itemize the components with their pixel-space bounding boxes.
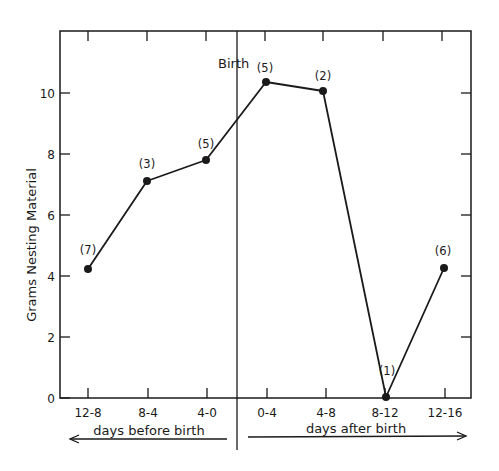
svg-text:8-12: 8-12 [371,406,398,420]
data-line [88,82,444,397]
svg-text:(5): (5) [198,137,214,151]
svg-text:12-8: 12-8 [74,406,101,420]
data-point [84,265,92,273]
data-point [143,177,151,185]
svg-text:8: 8 [47,148,55,162]
x-ticks-top [88,31,442,41]
data-point [382,393,390,401]
x-ticks-bottom [88,388,445,398]
data-point [202,156,210,164]
svg-text:10: 10 [40,87,55,101]
svg-text:0: 0 [47,392,55,406]
svg-text:(3): (3) [139,157,155,171]
nesting-material-chart: Birth 0 2 4 6 8 10 Grams Nesti [0,0,499,471]
svg-text:4-8: 4-8 [316,406,336,420]
data-point [262,78,270,86]
svg-text:4: 4 [47,270,55,284]
svg-text:(5): (5) [257,61,273,75]
birth-label: Birth [218,56,249,71]
svg-text:(2): (2) [315,69,331,83]
y-axis-label: Grams Nesting Material [24,168,39,322]
svg-text:(7): (7) [80,243,96,257]
svg-text:0-4: 0-4 [257,406,277,420]
svg-text:12-16: 12-16 [428,406,463,420]
x-label-after: days after birth [306,421,406,436]
data-points [84,78,448,401]
y-ticks-right [461,93,471,337]
svg-text:8-4: 8-4 [138,406,158,420]
svg-text:(6): (6) [435,244,451,258]
svg-text:2: 2 [47,331,55,345]
svg-text:4-0: 4-0 [197,406,217,420]
sample-size-labels: (7) (3) (5) (5) (2) (1) (6) [80,61,451,378]
y-tick-labels: 0 2 4 6 8 10 [40,87,55,406]
svg-text:6: 6 [47,209,55,223]
data-point [319,87,327,95]
x-label-before: days before birth [93,423,204,438]
svg-text:(1): (1) [379,364,395,378]
y-ticks-left [60,93,70,398]
data-point [440,264,448,272]
x-tick-labels: 12-8 8-4 4-0 0-4 4-8 8-12 12-16 [74,406,462,420]
